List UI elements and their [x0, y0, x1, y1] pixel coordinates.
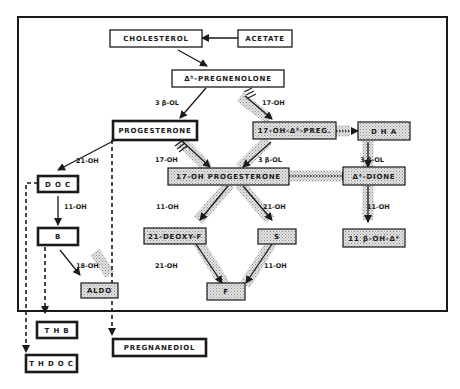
node-deoxy-f: 21-DEOXY-F [144, 228, 206, 244]
edge-label-prog-to-doc: 21-OH [76, 157, 99, 165]
edge-label-prog-to-17ohprog: 17-OH [155, 156, 178, 164]
node-label: B [55, 233, 61, 241]
edge-label-ohprog-to-deoxyf: 11-OH [156, 203, 179, 211]
node-s: S [258, 229, 296, 244]
arrow-pregnenolone-progesterone [180, 88, 206, 118]
edge-label-preg17-to-17ohprog: 3 β-OL [258, 156, 282, 164]
node-label: T H D O C [29, 360, 73, 368]
node-cholesterol: CHOLESTEROL [110, 30, 202, 47]
arrow-17oh-prog-deoxyf [200, 186, 228, 220]
node-label: ALDO [87, 287, 112, 295]
node-oh17-preg: 17-OH-Δ⁵-PREG. [253, 122, 336, 139]
node-label: 11 β-OH-Δ⁴ [348, 235, 399, 243]
edge-label-doc-to-b: 11-OH [64, 203, 87, 211]
node-aldo: ALDO [81, 283, 118, 298]
node-acetate: ACETATE [238, 30, 292, 47]
node-oh11b-a4: 11 β-OH-Δ⁴ [343, 229, 405, 247]
node-label: PROGESTERONE [118, 127, 191, 135]
node-dha: D H A [358, 122, 410, 140]
node-progesterone: PROGESTERONE [113, 121, 197, 140]
node-label: CHOLESTEROL [123, 35, 188, 43]
edge-label-preg-to-17oh: 17-OH [262, 99, 285, 107]
node-label: PREGNANEDIOL [124, 344, 195, 352]
node-label: T H B [45, 327, 70, 335]
node-label: D O C [45, 181, 71, 189]
edge-label-dha-to-dione: 3 β-OL [360, 156, 384, 164]
node-label: 17-OH-Δ⁵-PREG. [258, 127, 332, 135]
arrow-progesterone-doc [58, 140, 115, 170]
edge-label-s-to-f: 11-OH [264, 262, 287, 270]
node-thb: T H B [37, 322, 77, 338]
node-label: Δ⁴-DIONE [353, 173, 396, 181]
node-pregnanediol: PREGNANEDIOL [113, 339, 206, 356]
node-doc: D O C [38, 176, 78, 192]
node-label: 21-DEOXY-F [148, 233, 202, 241]
node-dione: Δ⁴-DIONE [343, 167, 405, 185]
node-f: F [207, 283, 245, 300]
node-label: ACETATE [245, 35, 285, 43]
node-label: F [223, 288, 229, 296]
edge-label-dione-to-11b: 11-OH [367, 203, 390, 211]
edge-label-deoxyf-to-f: 21-OH [155, 262, 178, 270]
node-label: D H A [371, 128, 397, 136]
edge-label-ohprog-to-s: 21-OH [263, 203, 286, 211]
node-label: S [274, 233, 280, 241]
node-label: Δ⁵-PREGNENOLONE [184, 75, 272, 83]
node-oh17-prog: 17-OH PROGESTERONE [168, 168, 289, 185]
edge-label-preg-to-prog: 3 β-OL [155, 99, 179, 107]
node-label: 17-OH PROGESTERONE [176, 173, 281, 181]
steroid-pathway-diagram: CHOLESTEROLACETATEΔ⁵-PREGNENOLONEPROGEST… [0, 0, 460, 389]
node-pregnenolone: Δ⁵-PREGNENOLONE [172, 70, 284, 87]
arrow-cholesterol-pregnenolone [178, 50, 207, 66]
edge-label-b-to-aldo: 18-OH [76, 262, 99, 270]
node-b: B [38, 228, 78, 245]
node-thdoc: T H D O C [26, 355, 77, 372]
